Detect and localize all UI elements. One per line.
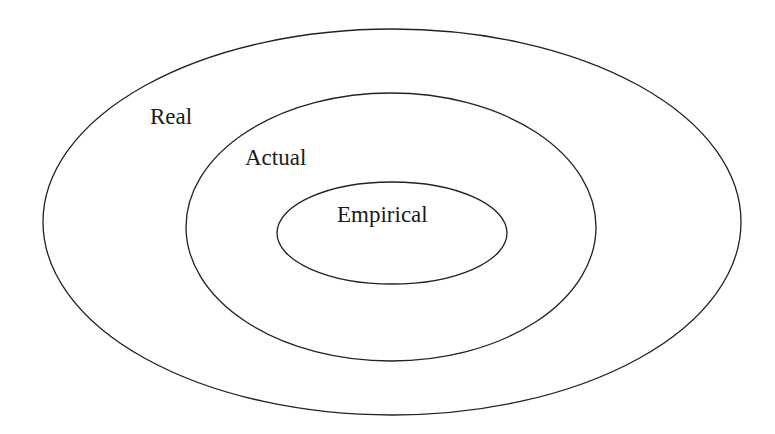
nested-domains-diagram: Real Actual Empirical — [0, 0, 775, 434]
empirical-label: Empirical — [337, 202, 428, 227]
empirical-ellipse — [277, 182, 507, 284]
actual-ellipse — [186, 93, 596, 361]
actual-label: Actual — [245, 145, 306, 170]
layer-actual: Actual — [186, 93, 596, 361]
layer-empirical: Empirical — [277, 182, 507, 284]
real-label: Real — [150, 104, 192, 129]
